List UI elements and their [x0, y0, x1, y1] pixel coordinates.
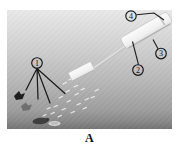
callout-3-number: 3 — [159, 49, 163, 58]
callout-1-number: 1 — [35, 59, 39, 68]
callout-2-number: 2 — [136, 66, 140, 75]
figure-panel: 1 2 3 4 A — [0, 0, 182, 150]
feeding-dish — [49, 121, 61, 126]
callout-4-number: 4 — [129, 12, 133, 21]
panel-label: A — [7, 131, 172, 146]
experiment-photo: 1 2 3 4 — [7, 10, 172, 129]
